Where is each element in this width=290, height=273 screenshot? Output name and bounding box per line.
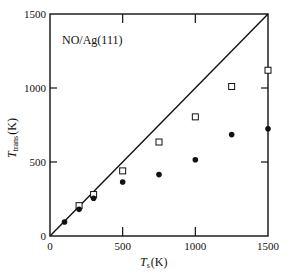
y-axis-title-unit: (K) bbox=[5, 118, 19, 135]
reference-diagonal-line bbox=[50, 14, 268, 236]
x-tick-label: 1000 bbox=[184, 240, 207, 252]
open-square-marker bbox=[120, 168, 126, 174]
scatter-chart: 050010001500050010001500 NO/Ag(111) Ts(K… bbox=[0, 0, 290, 273]
y-axis-title: Ttrans(K) bbox=[5, 118, 20, 158]
x-axis-title: Ts(K) bbox=[140, 255, 167, 270]
open-square-marker bbox=[229, 84, 235, 90]
diagonal-line bbox=[50, 14, 268, 236]
x-tick-label: 0 bbox=[47, 240, 53, 252]
y-tick-label: 1000 bbox=[24, 82, 47, 94]
filled-circle-marker bbox=[62, 219, 68, 225]
filled-circle-marker bbox=[120, 179, 126, 185]
y-axis-title-sub: trans bbox=[11, 136, 20, 152]
filled-circle-marker bbox=[229, 132, 235, 138]
y-tick-label: 1500 bbox=[24, 8, 47, 20]
x-tick-label: 1500 bbox=[257, 240, 280, 252]
x-tick-label: 500 bbox=[114, 240, 131, 252]
x-axis-title-unit: (K) bbox=[151, 255, 168, 269]
x-axis-title-sub: s bbox=[147, 261, 150, 270]
open-square-marker bbox=[192, 114, 198, 120]
filled-circle-marker bbox=[76, 207, 82, 213]
open-square-marker bbox=[156, 139, 162, 145]
filled-circle-marker bbox=[156, 172, 162, 178]
y-tick-label: 500 bbox=[30, 156, 47, 168]
filled-circle-marker bbox=[193, 157, 199, 163]
annotation-label: NO/Ag(111) bbox=[62, 33, 122, 47]
data-points bbox=[62, 67, 271, 225]
filled-circle-marker bbox=[265, 126, 271, 132]
open-square-marker bbox=[265, 67, 271, 73]
filled-circle-marker bbox=[91, 195, 97, 201]
y-tick-label: 0 bbox=[41, 230, 47, 242]
